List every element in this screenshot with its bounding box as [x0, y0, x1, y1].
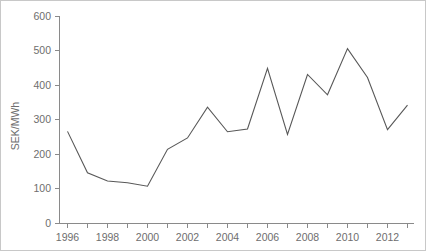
x-axis-ticks — [68, 224, 408, 229]
line-chart-canvas: 600 500 400 300 200 100 0 SEK/MWh — [1, 1, 426, 251]
y-tick-label-400: 400 — [33, 79, 51, 91]
chart-figure: 600 500 400 300 200 100 0 SEK/MWh — [0, 0, 426, 251]
y-tick-label-100: 100 — [33, 182, 51, 194]
y-tick-label-200: 200 — [33, 148, 51, 160]
x-tick-label-2004: 2004 — [216, 231, 240, 243]
x-tick-label-1998: 1998 — [96, 231, 120, 243]
y-tick-label-500: 500 — [33, 44, 51, 56]
x-tick-label-2000: 2000 — [136, 231, 160, 243]
x-tick-label-2008: 2008 — [296, 231, 320, 243]
y-tick-label-300: 300 — [33, 113, 51, 125]
y-axis-title: SEK/MWh — [9, 102, 21, 151]
x-tick-label-1996: 1996 — [56, 231, 80, 243]
x-tick-label-2006: 2006 — [256, 231, 280, 243]
x-tick-label-2012: 2012 — [376, 231, 400, 243]
x-tick-label-2002: 2002 — [176, 231, 200, 243]
y-tick-label-600: 600 — [33, 10, 51, 22]
y-tick-label-0: 0 — [45, 217, 51, 229]
y-axis-ticks — [55, 17, 60, 224]
data-series-line — [68, 49, 408, 187]
x-tick-label-2010: 2010 — [336, 231, 360, 243]
